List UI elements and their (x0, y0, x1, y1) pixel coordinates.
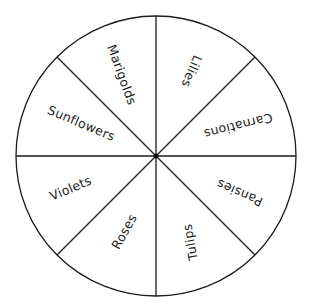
flower-spinner-wheel: Marigolds Lilies Carnations Pansies Tuli… (0, 0, 310, 308)
center-pivot-dot (154, 154, 159, 159)
